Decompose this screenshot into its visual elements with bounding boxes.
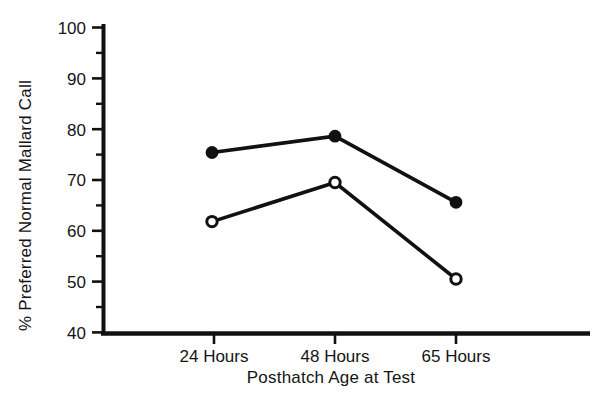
- data-point-open-65h: [451, 274, 461, 284]
- data-point-filled-65h: [451, 197, 462, 208]
- series-open-circle-line: [212, 183, 456, 280]
- y-tick-label-50: 50: [67, 273, 86, 292]
- data-point-filled-48h: [330, 131, 341, 142]
- data-point-filled-24h: [207, 147, 218, 158]
- x-tick-label-65-hours: 65 Hours: [422, 347, 491, 366]
- x-tick-label-24-hours: 24 Hours: [180, 347, 249, 366]
- y-axis-title: % Preferred Normal Mallard Call: [16, 80, 35, 331]
- data-point-open-48h: [330, 177, 340, 187]
- series-filled-circle-line: [212, 136, 456, 202]
- x-axis-title: Posthatch Age at Test: [247, 368, 415, 387]
- y-tick-label-40: 40: [67, 324, 86, 343]
- data-point-open-24h: [207, 216, 217, 226]
- line-chart: 100 90 80 70 60 50 40 % Preferred Normal…: [0, 0, 609, 397]
- x-tick-label-48-hours: 48 Hours: [301, 347, 370, 366]
- y-tick-label-60: 60: [67, 222, 86, 241]
- series-open-circle-markers: [207, 177, 461, 284]
- chart-figure: 100 90 80 70 60 50 40 % Preferred Normal…: [0, 0, 609, 397]
- y-tick-label-80: 80: [67, 121, 86, 140]
- y-tick-label-100: 100: [58, 19, 86, 38]
- y-tick-label-70: 70: [67, 171, 86, 190]
- series-filled-circle-markers: [207, 131, 462, 208]
- y-tick-label-90: 90: [67, 70, 86, 89]
